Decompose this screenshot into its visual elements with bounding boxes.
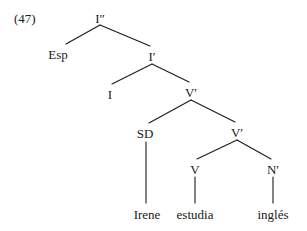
tree-node-i: I	[108, 88, 112, 101]
tree-node-vbar2: V′	[231, 126, 243, 139]
tree-node-ibar1: I′	[148, 50, 155, 63]
tree-terminal-estudia: estudia	[177, 208, 214, 221]
tree-node-vbar1: V′	[185, 86, 197, 99]
tree-node-esp: Esp	[48, 48, 68, 61]
tree-branch-Vbar1-SD	[149, 100, 191, 123]
tree-node-ibar2: I″	[95, 12, 105, 25]
tree-branch-lines	[0, 0, 307, 231]
tree-branch-Vbar1-Vbar2	[191, 100, 235, 122]
syntax-tree-figure: (47) I″EspI′IV′SDV′VN′Ireneestudiainglés	[0, 0, 307, 231]
tree-branch-Ibar2-Ibar1	[100, 25, 150, 46]
tree-node-v: V	[190, 163, 199, 176]
tree-terminal-ingles: inglés	[257, 208, 288, 221]
tree-branch-Vbar2-Nbar	[237, 140, 271, 159]
tree-branch-Ibar1-Vbar1	[152, 64, 189, 82]
tree-terminal-irene: Irene	[134, 208, 161, 221]
tree-node-nbar: N′	[267, 163, 279, 176]
tree-branch-Ibar1-I	[112, 64, 152, 84]
tree-branch-Vbar2-V	[197, 140, 237, 159]
tree-node-sd: SD	[137, 127, 154, 140]
tree-branch-Ibar2-Esp	[66, 25, 100, 44]
